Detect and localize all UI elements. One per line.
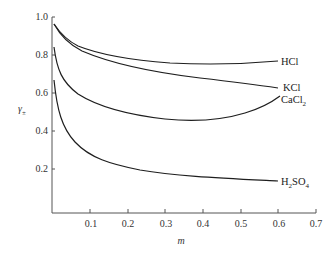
y-tick-label: 0.8	[36, 49, 49, 60]
curve-h2so4	[54, 80, 278, 181]
curve-hcl	[54, 24, 278, 64]
label-hcl: HCl	[281, 56, 299, 67]
y-tick-label: 0.4	[36, 125, 49, 136]
x-tick-label: 0.2	[122, 218, 135, 229]
label-cacl2: CaCl2	[281, 94, 307, 108]
x-axis: 0.1 0.2 0.3 0.4 0.5 0.6 0.7	[85, 209, 323, 229]
curve-kcl	[54, 24, 278, 88]
y-tick-label: 0.2	[36, 163, 49, 174]
x-tick-label: 0.7	[310, 218, 323, 229]
x-tick-label: 0.1	[85, 218, 98, 229]
activity-coefficient-chart: 0.2 0.4 0.6 0.8 1.0 γ± 0.1 0.2 0.3 0.4 0…	[0, 0, 330, 254]
x-axis-label: m	[177, 235, 184, 246]
y-tick-label: 0.6	[36, 87, 49, 98]
label-h2so4: H2SO4	[281, 176, 310, 190]
x-tick-label: 0.3	[160, 218, 173, 229]
axes-frame	[52, 17, 316, 213]
y-axis-label: γ±	[18, 103, 26, 117]
x-tick-label: 0.6	[273, 218, 286, 229]
x-tick-label: 0.5	[235, 218, 248, 229]
y-tick-label: 1.0	[36, 11, 49, 22]
label-kcl: KCl	[283, 82, 301, 93]
x-tick-label: 0.4	[197, 218, 210, 229]
